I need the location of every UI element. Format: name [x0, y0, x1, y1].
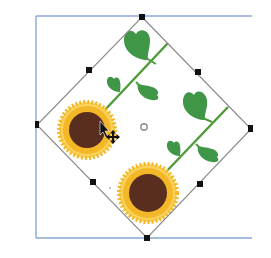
leaf-icon: [183, 91, 207, 120]
stray-point: [109, 187, 111, 189]
rotation-center-point[interactable]: [141, 124, 147, 130]
stem-lower: [164, 91, 228, 174]
handle-top-right-mid[interactable]: [195, 69, 201, 75]
leaf-icon: [198, 146, 219, 162]
handle-right[interactable]: [248, 125, 253, 132]
sunflower-lower: [119, 164, 177, 222]
leaf-icon: [107, 77, 121, 92]
handle-bottom-left-mid[interactable]: [90, 179, 96, 185]
handle-bottom-right-mid[interactable]: [197, 181, 203, 187]
stem-upper: [103, 30, 168, 112]
handle-bottom[interactable]: [144, 235, 150, 241]
leaf-icon: [124, 30, 150, 60]
leaf-icon: [138, 84, 159, 100]
leaf-icon: [167, 141, 181, 156]
handle-top-left-mid[interactable]: [86, 67, 92, 73]
handle-top[interactable]: [139, 14, 145, 20]
handle-left[interactable]: [35, 121, 39, 128]
design-canvas[interactable]: Rotated sunflower pattern selected on ar…: [0, 0, 271, 258]
